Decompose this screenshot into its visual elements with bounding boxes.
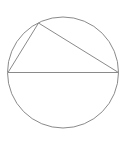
geometry-diagram [0, 0, 125, 149]
left-chord-line [8, 23, 39, 73]
right-chord-line [39, 23, 119, 73]
